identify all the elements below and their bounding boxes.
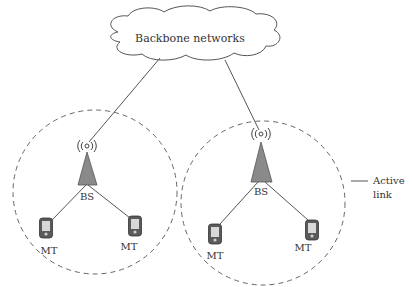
backbone-cloud: Backbone networks: [111, 6, 280, 60]
mt-label: MT: [121, 241, 138, 252]
backbone-link-left: [89, 58, 160, 142]
cloud-label: Backbone networks: [135, 32, 245, 45]
mt-label: MT: [41, 245, 58, 256]
mt-label: MT: [295, 242, 312, 253]
antenna-tower-icon: [78, 152, 97, 185]
antenna-signal-icon: [252, 128, 271, 140]
cell-right: BS MT MT: [181, 121, 345, 285]
mobile-phone-icon: [209, 224, 222, 244]
mobile-phone-icon: [306, 220, 319, 240]
backbone-link-right: [225, 60, 259, 130]
bs-label: BS: [254, 186, 268, 197]
active-link: [88, 185, 130, 218]
network-diagram: Backbone networks BS MT MT BS MT MT Acti…: [0, 0, 412, 287]
legend: Active link: [351, 175, 405, 200]
mobile-phone-icon: [40, 218, 53, 238]
bs-label: BS: [80, 191, 94, 202]
active-link: [52, 185, 86, 220]
legend-label-line1: Active: [372, 175, 405, 186]
antenna-signal-icon: [78, 140, 97, 152]
legend-label-line2: link: [373, 189, 393, 200]
mt-label: MT: [207, 250, 224, 261]
active-link: [220, 182, 258, 224]
active-link: [265, 182, 308, 220]
antenna-tower-icon: [251, 142, 272, 182]
mobile-phone-icon: [129, 216, 142, 236]
